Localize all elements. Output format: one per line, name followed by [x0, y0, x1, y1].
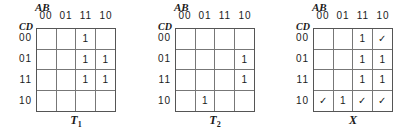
kmap-cell: 1	[235, 50, 255, 71]
kmap-cell	[37, 29, 57, 50]
kmap-cell	[235, 91, 255, 112]
kmap-grid: 111	[175, 28, 255, 112]
row-header: 11	[149, 74, 171, 85]
kmap-cell: 1	[353, 29, 373, 50]
column-header: 10	[96, 10, 116, 21]
cd-axis-label: CD	[19, 21, 33, 32]
row-header: 10	[10, 95, 32, 106]
kmap-cell	[334, 50, 354, 71]
kmap-cell	[334, 29, 354, 50]
map-caption: T1	[36, 113, 116, 129]
kmap-cell: 1	[76, 50, 96, 71]
kmap-cell	[96, 91, 116, 112]
row-header: 01	[287, 53, 309, 64]
check-mark-cell: ✓	[353, 91, 373, 112]
kmap-cell	[37, 50, 57, 71]
kmap-cell: 1	[196, 91, 216, 112]
map-caption: X	[313, 113, 393, 128]
kmap-grid: 11111	[36, 28, 116, 112]
kmap-cell	[96, 29, 116, 50]
column-header: 11	[215, 10, 235, 21]
kmap-cell	[57, 50, 77, 71]
kmap-cell: 1	[334, 91, 354, 112]
kmap-cell	[37, 91, 57, 112]
row-header: 00	[287, 32, 309, 43]
kmap-cell	[215, 29, 235, 50]
kmap-cell: 1	[353, 50, 373, 71]
kmap-cell	[57, 91, 77, 112]
kmap-cell: 1	[96, 50, 116, 71]
check-mark-cell: ✓	[373, 29, 393, 50]
column-header: 00	[175, 10, 195, 21]
kmap-cell: 1	[235, 70, 255, 91]
kmap-cell: 1	[76, 29, 96, 50]
kmap-cell: 1	[373, 70, 393, 91]
row-header: 01	[10, 53, 32, 64]
kmap-cell	[176, 50, 196, 71]
kmap-cell	[176, 29, 196, 50]
kmap-cell	[57, 29, 77, 50]
kmap-cell	[176, 70, 196, 91]
row-header: 10	[287, 95, 309, 106]
kmap-grid: 1✓1111✓1✓✓	[313, 28, 393, 112]
check-mark-cell: ✓	[373, 91, 393, 112]
row-header: 01	[149, 53, 171, 64]
row-header: 11	[287, 74, 309, 85]
column-header: 11	[76, 10, 96, 21]
row-header: 11	[10, 74, 32, 85]
map-caption: T2	[175, 113, 255, 129]
column-header: 00	[36, 10, 56, 21]
kmap-cell	[176, 91, 196, 112]
row-header: 00	[149, 32, 171, 43]
column-header: 00	[313, 10, 333, 21]
cd-axis-label: CD	[158, 21, 172, 32]
column-header: 01	[333, 10, 353, 21]
column-header: 01	[56, 10, 76, 21]
kmap-cell: 1	[76, 70, 96, 91]
column-header: 01	[195, 10, 215, 21]
kmap-cell	[314, 70, 334, 91]
check-mark-cell: ✓	[314, 91, 334, 112]
column-header: 11	[353, 10, 373, 21]
kmap-cell	[334, 70, 354, 91]
row-header: 10	[149, 95, 171, 106]
kmap-cell	[37, 70, 57, 91]
column-header: 10	[235, 10, 255, 21]
cd-axis-label: CD	[296, 21, 310, 32]
kmap-cell	[76, 91, 96, 112]
column-header: 10	[373, 10, 393, 21]
kmap-cell	[215, 50, 235, 71]
kmap-cell	[215, 70, 235, 91]
kmap-cell	[57, 70, 77, 91]
kmap-cell	[314, 50, 334, 71]
kmap-cell: 1	[353, 70, 373, 91]
kmap-cell	[314, 29, 334, 50]
kmap-cell	[215, 91, 235, 112]
kmap-cell: 1	[373, 50, 393, 71]
kmap-cell	[196, 70, 216, 91]
kmap-cell: 1	[96, 70, 116, 91]
row-header: 00	[10, 32, 32, 43]
kmap-cell	[235, 29, 255, 50]
kmap-cell	[196, 29, 216, 50]
kmap-cell	[196, 50, 216, 71]
